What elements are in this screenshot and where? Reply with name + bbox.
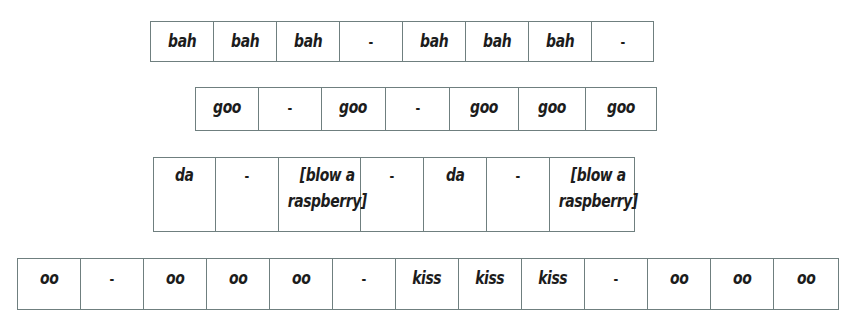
chant-row-oo-kiss: oo - oo oo oo - kiss kiss kiss - oo oo o… bbox=[17, 258, 839, 310]
syllable-text: oo bbox=[797, 267, 815, 289]
syllable-cell: oo bbox=[207, 259, 270, 309]
chant-row-da: da - [blow a raspberry] - da - [blow a r… bbox=[153, 157, 635, 232]
syllable-cell: bah bbox=[466, 22, 529, 61]
action-text: [blow a raspberry] bbox=[288, 162, 367, 214]
syllable-text: goo bbox=[538, 96, 566, 118]
syllable-cell: da bbox=[424, 158, 487, 231]
rest-dash: - bbox=[288, 97, 292, 119]
rest-dash: - bbox=[369, 31, 373, 53]
action-cell: [blow a raspberry] bbox=[550, 158, 635, 231]
syllable-text: bah bbox=[420, 30, 448, 52]
rest-dash: - bbox=[614, 268, 618, 290]
rest-cell: - bbox=[333, 259, 396, 309]
rest-dash: - bbox=[110, 268, 114, 290]
action-cell: [blow a raspberry] bbox=[279, 158, 361, 231]
syllable-cell: bah bbox=[529, 22, 592, 61]
syllable-text: goo bbox=[470, 96, 498, 118]
rest-cell: - bbox=[487, 158, 550, 231]
syllable-cell: goo bbox=[322, 88, 386, 130]
syllable-cell: bah bbox=[403, 22, 466, 61]
syllable-cell: kiss bbox=[522, 259, 585, 309]
syllable-cell: bah bbox=[151, 22, 214, 61]
syllable-text: goo bbox=[340, 96, 368, 118]
chant-row-goo: goo - goo - goo goo goo bbox=[195, 87, 657, 131]
syllable-text: kiss bbox=[538, 267, 567, 289]
syllable-text: oo bbox=[733, 267, 751, 289]
rest-cell: - bbox=[259, 88, 322, 130]
syllable-text: goo bbox=[213, 96, 241, 118]
syllable-text: da bbox=[175, 162, 194, 188]
syllable-text: kiss bbox=[475, 267, 504, 289]
rest-cell: - bbox=[216, 158, 279, 231]
syllable-text: oo bbox=[229, 267, 247, 289]
syllable-text: oo bbox=[292, 267, 310, 289]
syllable-cell: kiss bbox=[396, 259, 459, 309]
rest-cell: - bbox=[340, 22, 403, 61]
syllable-text: oo bbox=[166, 267, 184, 289]
syllable-cell: goo bbox=[196, 88, 259, 130]
rest-cell: - bbox=[361, 158, 424, 231]
syllable-text: oo bbox=[670, 267, 688, 289]
syllable-cell: bah bbox=[214, 22, 277, 61]
rest-dash: - bbox=[390, 163, 394, 189]
syllable-text: bah bbox=[546, 30, 574, 52]
action-text: [blow a raspberry] bbox=[559, 162, 638, 214]
syllable-cell: oo bbox=[18, 259, 81, 309]
rest-cell: - bbox=[585, 259, 648, 309]
rest-cell: - bbox=[81, 259, 144, 309]
syllable-text: goo bbox=[607, 96, 635, 118]
syllable-cell: kiss bbox=[459, 259, 522, 309]
rest-cell: - bbox=[592, 22, 654, 61]
chant-row-bah: bah bah bah - bah bah bah - bbox=[150, 21, 654, 62]
rest-dash: - bbox=[516, 163, 520, 189]
syllable-text: oo bbox=[40, 267, 58, 289]
rest-dash: - bbox=[362, 268, 366, 290]
syllable-cell: oo bbox=[144, 259, 207, 309]
syllable-cell: bah bbox=[277, 22, 340, 61]
syllable-text: kiss bbox=[412, 267, 441, 289]
syllable-cell: oo bbox=[270, 259, 333, 309]
rest-cell: - bbox=[386, 88, 450, 130]
syllable-cell: goo bbox=[519, 88, 586, 130]
syllable-text: bah bbox=[231, 30, 259, 52]
syllable-cell: oo bbox=[648, 259, 711, 309]
syllable-text: bah bbox=[168, 30, 196, 52]
syllable-cell: da bbox=[154, 158, 216, 231]
syllable-text: da bbox=[446, 162, 465, 188]
syllable-cell: goo bbox=[586, 88, 657, 130]
rest-dash: - bbox=[245, 163, 249, 189]
rest-dash: - bbox=[415, 97, 419, 119]
syllable-cell: goo bbox=[450, 88, 519, 130]
rest-dash: - bbox=[620, 31, 624, 53]
syllable-cell: oo bbox=[711, 259, 774, 309]
syllable-text: bah bbox=[294, 30, 322, 52]
syllable-cell: oo bbox=[774, 259, 839, 309]
syllable-text: bah bbox=[483, 30, 511, 52]
